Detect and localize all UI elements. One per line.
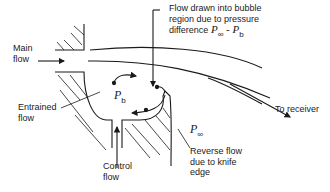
ambient-pressure-symbol: P∞ bbox=[190, 122, 203, 139]
reverse-flow-label: Reverse flow due to knife edge bbox=[190, 146, 242, 178]
entrained-leader bbox=[61, 92, 100, 108]
bubble-pressure-symbol: Pb bbox=[114, 88, 126, 105]
pressure-difference: P∞ - Pb bbox=[211, 23, 244, 35]
flow-diagram bbox=[0, 0, 330, 192]
lower-nozzle-wall bbox=[55, 72, 112, 148]
knife-edge-wall bbox=[122, 91, 171, 166]
upper-nozzle-wall bbox=[55, 24, 84, 50]
control-flow-label: Control flow bbox=[103, 161, 132, 182]
main-flow-label: Main flow bbox=[13, 43, 33, 64]
entrained-flow-arrow bbox=[114, 75, 136, 82]
flow-drawn-label: Flow drawn into bubble region due to pre… bbox=[169, 3, 262, 41]
reverse-flow-leader bbox=[178, 129, 190, 148]
entrained-flow-label: Entrained flow bbox=[18, 102, 57, 123]
to-receiver-label: To receiver bbox=[275, 104, 319, 115]
jet-streamline-upper bbox=[90, 47, 262, 68]
